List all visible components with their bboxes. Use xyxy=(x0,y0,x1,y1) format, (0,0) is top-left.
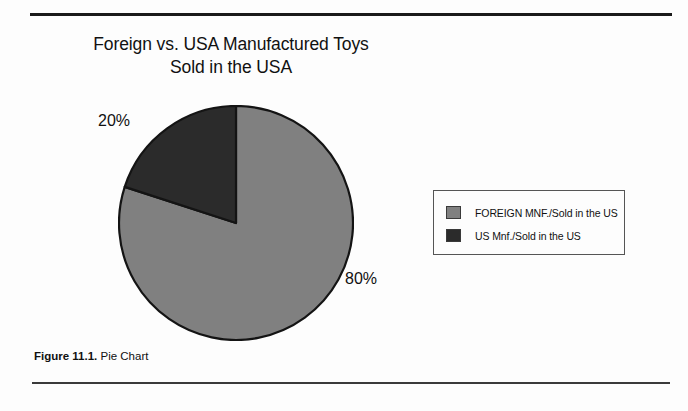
figure-caption: Figure 11.1. Pie Chart xyxy=(34,350,148,362)
top-horizontal-rule xyxy=(30,13,672,16)
legend-swatch-us-icon xyxy=(446,229,461,242)
legend-label-us: US Mnf./Sold in the US xyxy=(475,230,581,242)
legend-swatch-foreign-icon xyxy=(446,206,461,219)
chart-title-line-1: Foreign vs. USA Manufactured Toys xyxy=(93,34,369,54)
pie-chart-svg xyxy=(118,105,354,341)
pie-chart xyxy=(118,105,354,341)
bottom-horizontal-rule xyxy=(32,382,670,384)
chart-title-line-2: Sold in the USA xyxy=(56,56,406,79)
figure-caption-title: Pie Chart xyxy=(100,350,148,362)
pie-label-foreign-percent: 80% xyxy=(345,270,377,288)
figure-caption-number: Figure 11.1. xyxy=(34,350,97,362)
legend-label-foreign: FOREIGN MNF./Sold in the US xyxy=(475,207,618,219)
chart-title: Foreign vs. USA Manufactured Toys Sold i… xyxy=(56,33,406,79)
legend-item-foreign: FOREIGN MNF./Sold in the US xyxy=(446,202,624,223)
pie-label-us-percent: 20% xyxy=(98,112,130,130)
legend-item-us: US Mnf./Sold in the US xyxy=(446,225,624,246)
chart-legend: FOREIGN MNF./Sold in the US US Mnf./Sold… xyxy=(433,190,625,255)
